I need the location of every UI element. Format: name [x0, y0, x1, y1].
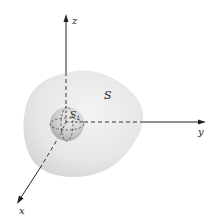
x-axis-line — [20, 165, 42, 199]
z-axis-arrow-icon — [64, 14, 69, 22]
outer-surface-label: S — [104, 89, 112, 102]
y-axis-arrow-icon — [198, 120, 206, 125]
inner-sphere-subscript: 1 — [76, 114, 80, 121]
x-axis-arrow-icon — [17, 196, 24, 205]
divergence-theorem-figure: z y x S S1 — [0, 0, 221, 222]
y-axis-label: y — [197, 126, 204, 137]
x-axis-label: x — [19, 205, 25, 216]
z-axis-label: z — [71, 15, 78, 26]
